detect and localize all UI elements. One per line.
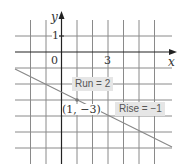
y-axis-arrow-icon — [59, 11, 65, 19]
run-label: Run = 2 — [75, 79, 110, 89]
vertical-grid-lines — [31, 20, 155, 164]
point-label: (1, −3) — [62, 104, 101, 115]
origin-label: 0 — [51, 55, 58, 66]
coordinate-plane-figure: y x 1 0 3 Run = 2 Rise = −1 (1, −3) — [0, 0, 188, 168]
point-marker — [75, 98, 79, 102]
x-tick-label-3: 3 — [104, 55, 111, 66]
horizontal-grid-lines — [15, 36, 172, 148]
y-axis-label: y — [51, 11, 58, 23]
rise-label: Rise = −1 — [119, 104, 162, 114]
x-axis-label: x — [168, 56, 175, 68]
y-tick-label-1: 1 — [52, 30, 59, 41]
